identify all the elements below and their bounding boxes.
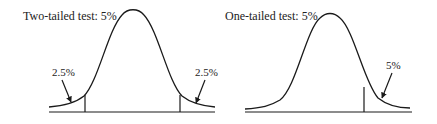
- right-tail-arrow: [196, 80, 205, 103]
- left-tail-label: 2.5%: [52, 66, 75, 78]
- two-tailed-title: Two-tailed test: 5%: [23, 9, 117, 23]
- diagrams-canvas: Two-tailed test: 5% 2.5% 2.5% One-tailed…: [0, 0, 437, 124]
- two-tailed-bell-curve: [49, 10, 215, 107]
- one-tailed-diagram: One-tailed test: 5% 5%: [225, 9, 412, 112]
- right-tail-label: 2.5%: [195, 66, 218, 78]
- one-tailed-title: One-tailed test: 5%: [225, 9, 318, 23]
- one-tailed-label: 5%: [386, 59, 401, 71]
- one-tailed-arrow: [382, 73, 392, 98]
- significance-test-diagrams: Two-tailed test: 5% 2.5% 2.5% One-tailed…: [0, 0, 437, 124]
- two-tailed-diagram: Two-tailed test: 5% 2.5% 2.5%: [23, 9, 218, 112]
- left-tail-arrow: [62, 80, 71, 102]
